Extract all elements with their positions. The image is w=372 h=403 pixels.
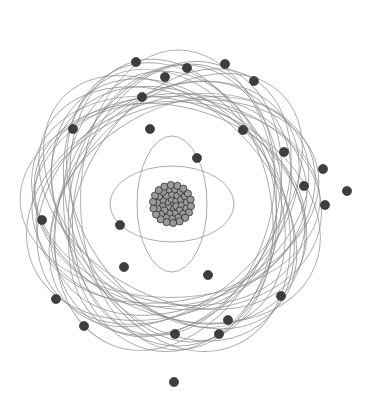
electron bbox=[145, 124, 154, 133]
electron bbox=[137, 92, 146, 101]
electron bbox=[238, 125, 247, 134]
electron bbox=[131, 57, 140, 66]
electron bbox=[192, 153, 201, 162]
electron bbox=[318, 164, 327, 173]
electron bbox=[182, 63, 191, 72]
electron bbox=[342, 186, 351, 195]
electron bbox=[220, 59, 229, 68]
electron bbox=[79, 321, 88, 330]
atom-illustration bbox=[0, 0, 372, 403]
nucleon bbox=[176, 218, 183, 225]
electron bbox=[249, 76, 258, 85]
electron bbox=[160, 72, 169, 81]
electron bbox=[279, 147, 288, 156]
nucleon bbox=[187, 196, 194, 203]
electron bbox=[203, 270, 212, 279]
electron bbox=[320, 200, 329, 209]
nucleon bbox=[170, 219, 177, 226]
nucleon bbox=[167, 181, 174, 188]
electron bbox=[115, 220, 124, 229]
electron bbox=[169, 377, 178, 386]
electron bbox=[223, 315, 232, 324]
atom-diagram: Atom model illustration bbox=[0, 0, 372, 403]
electron bbox=[276, 291, 285, 300]
electron bbox=[119, 262, 128, 271]
nucleon bbox=[180, 185, 187, 192]
electron bbox=[170, 329, 179, 338]
electron bbox=[299, 181, 308, 190]
nucleon bbox=[161, 183, 168, 190]
electron bbox=[51, 294, 60, 303]
electron bbox=[68, 124, 77, 133]
electron bbox=[37, 215, 46, 224]
electron bbox=[214, 329, 223, 338]
nucleus bbox=[150, 181, 195, 226]
nucleon bbox=[150, 205, 157, 212]
